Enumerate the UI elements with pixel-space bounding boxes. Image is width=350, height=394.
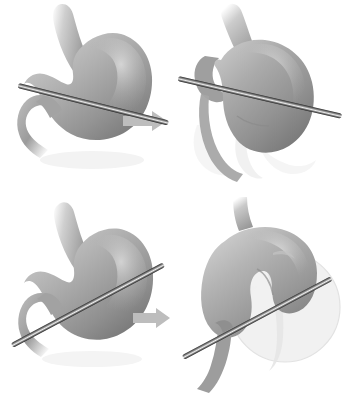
esophagus [233,197,253,231]
panel-2-top-right [175,0,350,197]
panel-1-top-left [0,0,175,197]
cast-shadow [40,151,144,169]
panel-3-bottom-left [0,197,175,394]
panel-4-bottom-right [175,197,350,394]
illustration-figure: Organoaxial gastric rotation sequence St… [0,0,350,394]
cast-shadow [42,351,142,367]
